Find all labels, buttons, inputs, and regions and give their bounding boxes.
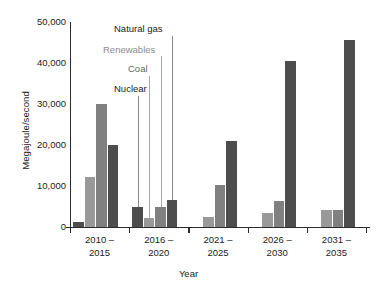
y-tick-label: 30,000 [20,99,66,109]
bar-coal [203,217,214,227]
x-category-label-line: 2021 – [186,234,250,247]
leader-line-natural-gas [172,36,173,200]
bar-coal [144,218,155,227]
bar-group [310,22,355,227]
x-category-label-line: 2020 [127,247,191,260]
bar-natural-gas [167,200,178,227]
annotation-natural-gas: Natural gas [114,23,163,34]
bar-chart: Megajoule/second 50,000 40,000 30,000 20… [0,0,377,290]
bar-natural-gas [344,40,355,227]
bar-renewables [96,104,107,227]
bar-renewables [333,210,344,227]
bar-natural-gas [285,61,296,227]
y-tick-label: 20,000 [20,140,66,150]
x-category-label-line: 2016 – [127,234,191,247]
x-axis-title: Year [0,268,377,279]
x-tick-mark [129,228,130,233]
x-category-label: 2031 –2035 [304,234,368,259]
bar-nuclear [132,207,143,228]
x-category-label: 2010 –2015 [68,234,132,259]
annotation-coal: Coal [128,63,148,74]
leader-line-coal [149,76,150,218]
y-tick-label: 40,000 [20,58,66,68]
bar-renewables [215,185,226,227]
bar-group [251,22,296,227]
x-category-label-line: 2030 [245,247,309,260]
y-tick-label: 50,000 [20,17,66,27]
bar-coal [262,213,273,227]
leader-line-renewables [161,56,162,207]
x-category-label-line: 2026 – [245,234,309,247]
x-category-label-line: 2015 [68,247,132,260]
leader-line-nuclear [138,96,139,207]
x-axis-line [70,227,370,228]
bar-renewables [155,207,166,227]
bar-coal [321,210,332,227]
x-tick-mark [70,228,71,233]
x-category-label: 2021 –2025 [186,234,250,259]
x-category-label-line: 2010 – [68,234,132,247]
bar-coal [85,177,96,227]
bar-natural-gas [108,145,119,227]
x-tick-mark [248,228,249,233]
x-category-label-line: 2031 – [304,234,368,247]
y-axis-tick-labels: 50,000 40,000 30,000 20,000 10,000 0 [14,0,66,290]
annotation-nuclear: Nuclear [114,83,147,94]
annotation-renewables: Renewables [103,44,155,55]
x-tick-mark [307,228,308,233]
x-tick-mark [366,228,367,233]
bar-renewables [274,201,285,227]
y-tick-label: 0 [20,222,66,232]
y-tick-label: 10,000 [20,181,66,191]
x-tick-mark [188,228,189,233]
x-category-label-line: 2025 [186,247,250,260]
bar-group [192,22,237,227]
bar-natural-gas [226,141,237,227]
bar-nuclear [73,222,84,227]
x-category-label: 2016 –2020 [127,234,191,259]
x-category-label-line: 2035 [304,247,368,260]
x-category-label: 2026 –2030 [245,234,309,259]
